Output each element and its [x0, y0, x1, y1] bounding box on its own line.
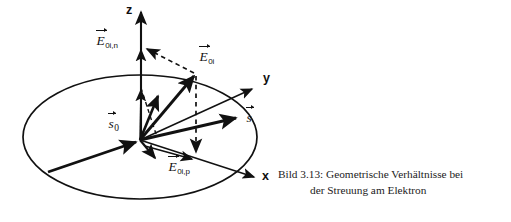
s0-subscript: 0 [114, 123, 119, 133]
y-axis-label: y [263, 72, 270, 85]
s0-glyph: s [108, 117, 114, 131]
x-axis-line [140, 140, 254, 177]
z-axis-label: z [126, 4, 132, 17]
s0-vector-arrow [48, 142, 136, 172]
E0i-p-vector-label: E0i,p [168, 160, 190, 176]
s-glyph: s [246, 111, 252, 125]
E0i-n-vector-label: E0i,n [96, 34, 118, 50]
figure-root: z y x E0i E0i,n E0i,p s s0 Bild 3.13: Ge… [0, 0, 511, 222]
E0i-vector-label: E0i [199, 50, 214, 66]
figure-caption: Bild 3.13: Geometrische Verhältnisse bei… [276, 166, 504, 198]
x-axis-label: x [262, 170, 269, 183]
E0i-p-subscript: 0i,p [177, 167, 190, 176]
s-vector-label: s [246, 111, 252, 125]
E0i-p-glyph: E [168, 160, 177, 174]
E0i-glyph: E [199, 50, 208, 64]
caption-line-2: der Streuung am Elektron [276, 182, 504, 198]
E0i-n-subscript: 0i,n [105, 41, 118, 50]
s0-vector-label: s0 [108, 117, 119, 134]
E0i-to-z-axis-dashed [147, 49, 194, 73]
E0i-subscript: 0i [208, 57, 214, 66]
E0i-normal-component-arrow [140, 90, 141, 140]
E0i-n-glyph: E [96, 34, 105, 48]
caption-line-1: Bild 3.13: Geometrische Verhältnisse bei [276, 166, 504, 182]
